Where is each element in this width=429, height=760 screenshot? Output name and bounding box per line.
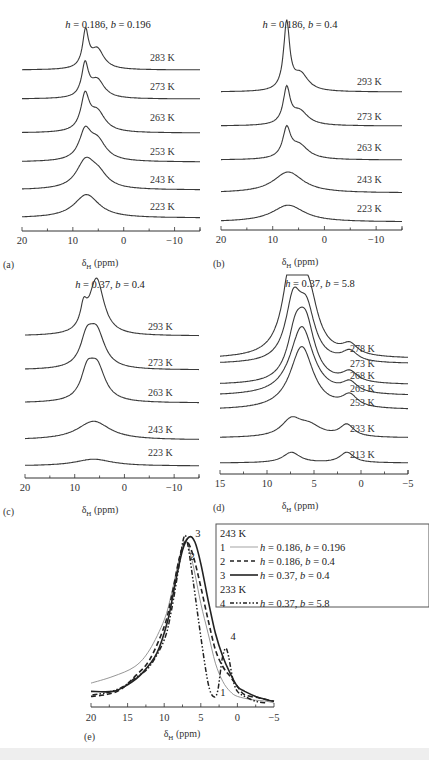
spectrum-line	[25, 421, 199, 439]
title-b-value: = 5.8	[331, 278, 355, 289]
legend-entry-number: 4	[220, 598, 226, 609]
x-tick-label: 10	[262, 478, 273, 489]
legend-entry-label: h = 0.37, b = 5.8	[260, 598, 330, 609]
title-b-value: = 0.4	[121, 279, 146, 290]
panel-label: (e)	[84, 731, 95, 743]
temperature-label: 233 K	[350, 423, 376, 434]
temperature-label: 293 K	[148, 321, 174, 332]
x-tick-label: 0	[121, 235, 126, 246]
temperature-label: 223 K	[357, 203, 383, 214]
temperature-label: 278 K	[350, 343, 376, 354]
temperature-label: 223 K	[148, 447, 174, 458]
x-tick-label: 10	[159, 712, 170, 723]
x-tick-label: −10	[166, 482, 182, 493]
x-tick-label: 20	[17, 235, 28, 246]
legend-group-header: 233 K	[220, 584, 246, 595]
spectrum-line	[22, 28, 200, 70]
x-tick-label: 10	[68, 235, 79, 246]
curve-annotation: 2	[189, 551, 194, 562]
panel-label: (c)	[3, 506, 14, 518]
spectrum-line	[220, 452, 408, 463]
temperature-label: 263 K	[357, 142, 383, 153]
x-tick-label: 15	[215, 478, 226, 489]
curve-annotation: 1	[220, 687, 225, 698]
spectrum-line	[25, 459, 199, 466]
spectrum-line	[25, 324, 199, 370]
spectrum-line	[25, 358, 199, 403]
x-tick-label: −10	[368, 234, 384, 245]
temperature-label: 243 K	[148, 424, 174, 435]
panel-a: h = 0.186, b = 0.196283 K273 K263 K253 K…	[3, 19, 200, 271]
x-tick-label: −5	[402, 478, 413, 489]
x-tick-label: −5	[268, 712, 279, 723]
temperature-label: 293 K	[357, 76, 383, 87]
legend-group-header: 243 K	[220, 528, 246, 539]
panel-title: h = 0.186, b = 0.4	[263, 19, 339, 30]
x-tick-label: −10	[166, 235, 182, 246]
x-tick-label: 15	[122, 712, 133, 723]
panel-label: (b)	[213, 258, 225, 270]
x-tick-label: 0	[122, 482, 127, 493]
temperature-label: 213 K	[350, 449, 376, 460]
temperature-label: 273 K	[357, 111, 383, 122]
temperature-label: 273 K	[150, 81, 176, 92]
temperature-label: 263 K	[350, 383, 376, 394]
x-tick-label: 0	[235, 712, 240, 723]
legend: 243 K1h = 0.186, b = 0.1962h = 0.186, b …	[216, 524, 429, 609]
temperature-label: 263 K	[150, 112, 176, 123]
x-tick-label: 5	[198, 712, 203, 723]
temperature-label: 253 K	[150, 146, 176, 157]
title-b-value: = 0.196	[116, 19, 151, 30]
x-tick-label: 5	[311, 478, 316, 489]
legend-entry-label: h = 0.186, b = 0.4	[260, 556, 336, 567]
panel-label: (d)	[213, 502, 225, 514]
panel-b: h = 0.186, b = 0.4293 K273 K263 K243 K22…	[213, 19, 402, 270]
x-tick-label: 0	[322, 234, 327, 245]
panel-e: 123420151050−5δH (ppm)(e)243 K1h = 0.186…	[84, 524, 429, 743]
panel-c: h = 0.37, b = 0.4293 K273 K263 K243 K223…	[3, 278, 199, 518]
legend-entry-number: 3	[220, 570, 225, 581]
title-h-value: = 0.186,	[71, 19, 111, 30]
x-tick-label: 20	[86, 712, 97, 723]
x-axis-title: δH (ppm)	[282, 500, 319, 514]
nmr-figure: h = 0.186, b = 0.196283 K273 K263 K253 K…	[0, 0, 429, 760]
x-axis-title: δH (ppm)	[164, 728, 201, 742]
panel-title: h = 0.186, b = 0.196	[65, 19, 150, 30]
panel-label: (a)	[3, 259, 14, 271]
curve-annotation: 4	[230, 631, 236, 642]
temperature-label: 223 K	[150, 201, 176, 212]
x-tick-label: 20	[216, 234, 227, 245]
panel-d: h = 0.37, b = 5.8278 K273 K268 K263 K253…	[213, 275, 414, 514]
x-axis-title: δH (ppm)	[82, 257, 119, 271]
temperature-label: 268 K	[350, 370, 376, 381]
curve-annotation: 3	[195, 528, 200, 539]
title-b-value: = 0.4	[313, 19, 338, 30]
temperature-label: 273 K	[148, 357, 174, 368]
legend-entry-label: h = 0.37, b = 0.4	[260, 570, 330, 581]
legend-entry-label: h = 0.186, b = 0.196	[260, 542, 345, 553]
temperature-label: 243 K	[357, 174, 383, 185]
x-tick-label: 20	[20, 482, 31, 493]
x-tick-label: 0	[358, 478, 363, 489]
temperature-label: 283 K	[150, 52, 176, 63]
caption-strip	[0, 748, 429, 760]
temperature-label: 273 K	[350, 358, 376, 369]
legend-entry-number: 2	[220, 556, 225, 567]
x-tick-label: 10	[69, 482, 80, 493]
temperature-label: 243 K	[150, 174, 176, 185]
panel-title: h = 0.37, b = 0.4	[75, 279, 145, 290]
temperature-label: 253 K	[350, 397, 376, 408]
x-tick-label: 10	[267, 234, 278, 245]
spectrum-line	[220, 417, 408, 438]
x-axis-title: δH (ppm)	[282, 256, 319, 270]
x-axis-title: δH (ppm)	[82, 504, 119, 518]
temperature-label: 263 K	[148, 387, 174, 398]
spectrum-line	[22, 61, 200, 99]
legend-entry-number: 1	[220, 542, 225, 553]
